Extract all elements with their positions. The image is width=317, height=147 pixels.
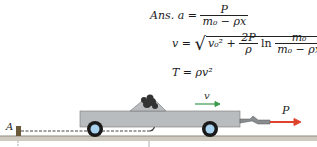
force-arrow [270, 119, 301, 126]
wheel-rear [87, 121, 103, 137]
truck-diagram: v P A [0, 0, 317, 147]
force-label: P [281, 104, 290, 117]
wheel-front [202, 121, 218, 137]
point-label: A [5, 121, 13, 132]
hitch [240, 116, 270, 124]
velocity-label: v [204, 90, 210, 101]
ground [0, 136, 317, 141]
anchor-post [16, 126, 21, 136]
velocity-arrow [195, 102, 220, 107]
